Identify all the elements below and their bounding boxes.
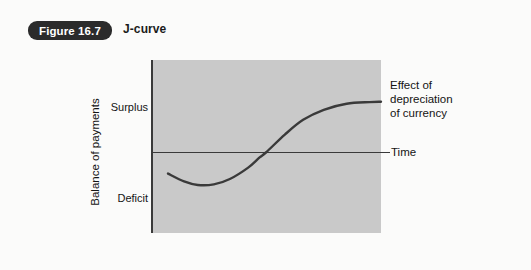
curve-svg (0, 0, 531, 270)
j-curve-chart: Surplus Deficit Balance of payments Time… (0, 0, 531, 270)
figure-page: Figure 16.7 J-curve Surplus Deficit Bala… (0, 0, 531, 270)
j-curve-line (168, 102, 381, 186)
